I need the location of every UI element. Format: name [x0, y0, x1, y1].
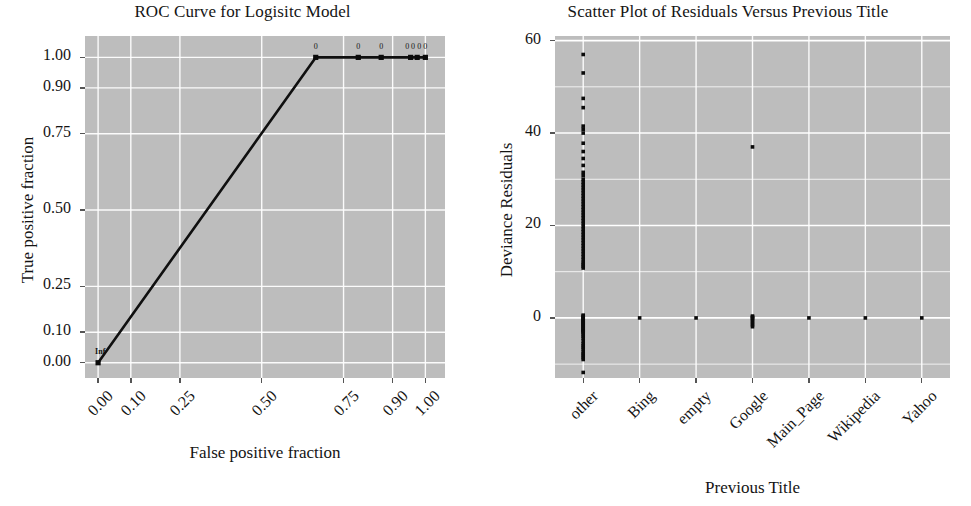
roc-x-tick-mark [425, 378, 426, 383]
roc-x-tick-mark [392, 378, 393, 383]
residuals-x-tick-mark [808, 378, 809, 383]
roc-x-tick-mark [261, 378, 262, 383]
roc-x-tick-mark [343, 378, 344, 383]
residuals-x-tick-mark [921, 378, 922, 383]
roc-y-tick-label: 0.00 [5, 352, 71, 370]
roc-y-tick-mark [80, 209, 85, 210]
roc-x-tick-mark [130, 378, 131, 383]
roc-y-tick-mark [80, 87, 85, 88]
residuals-x-tick-mark [639, 378, 640, 383]
roc-y-tick-label: 0.50 [5, 199, 71, 217]
roc-y-tick-mark [80, 57, 85, 58]
roc-threshold-annotation: 0 [371, 42, 391, 51]
roc-y-tick-label: 1.00 [5, 46, 71, 64]
roc-threshold-annotation: 0 [348, 42, 368, 51]
roc-chart-panel: ROC Curve for Logisitc Model 0.000.100.2… [0, 0, 485, 506]
residuals-x-axis-label: Previous Title [555, 478, 950, 498]
roc-y-tick-label: 0.10 [5, 321, 71, 339]
residuals-y-axis-label: Deviance Residuals [497, 100, 517, 320]
roc-threshold-annotation: 0 [415, 42, 435, 51]
roc-x-tick-label: 0.50 [218, 387, 280, 449]
roc-y-tick-mark [80, 133, 85, 134]
roc-inf-annotation: Inf [95, 347, 105, 356]
residuals-y-tick-label: 60 [485, 30, 541, 48]
roc-threshold-annotation: 0 [306, 42, 326, 51]
roc-x-axis-label: False positive fraction [85, 443, 445, 463]
residuals-chart-panel: Scatter Plot of Residuals Versus Previou… [485, 0, 971, 506]
residuals-x-tick-mark [583, 378, 584, 383]
roc-y-tick-mark [80, 286, 85, 287]
roc-x-tick-mark [179, 378, 180, 383]
roc-y-tick-mark [80, 331, 85, 332]
roc-y-tick-label: 0.25 [5, 275, 71, 293]
residuals-y-tick-mark [550, 40, 555, 41]
residuals-chart-title: Scatter Plot of Residuals Versus Previou… [485, 2, 971, 22]
roc-chart-title: ROC Curve for Logisitc Model [0, 2, 485, 22]
residuals-x-tick-mark [752, 378, 753, 383]
residuals-plot-svg [555, 36, 950, 378]
residuals-y-tick-mark [550, 132, 555, 133]
roc-y-tick-label: 0.75 [5, 123, 71, 141]
residuals-x-tick-mark [865, 378, 866, 383]
roc-y-axis-label: True positive fraction [18, 100, 38, 320]
roc-y-tick-mark [80, 362, 85, 363]
figure-root: ROC Curve for Logisitc Model 0.000.100.2… [0, 0, 971, 506]
residuals-y-tick-mark [550, 317, 555, 318]
roc-plot-svg [85, 36, 445, 378]
roc-y-tick-label: 0.90 [5, 77, 71, 95]
residuals-x-tick-mark [695, 378, 696, 383]
roc-x-tick-mark [97, 378, 98, 383]
residuals-y-tick-mark [550, 225, 555, 226]
